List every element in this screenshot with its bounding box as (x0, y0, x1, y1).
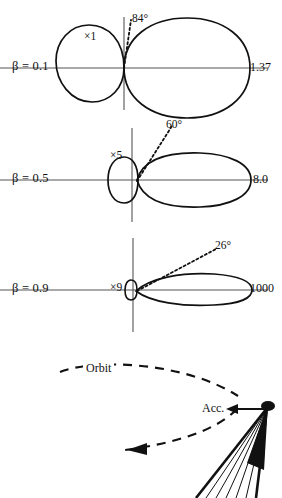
panel-orbit-graphics (60, 364, 275, 498)
multiplier-label-1: ×1 (84, 31, 96, 43)
orbit-arc-lower (125, 409, 237, 450)
peak-value-label-3: 1000 (250, 282, 274, 294)
acceleration-label: Acc. (200, 402, 226, 414)
beta-label-2: β = 0.5 (12, 172, 49, 185)
angle-ray-2 (137, 126, 172, 181)
angle-ray-3 (137, 249, 216, 291)
angle-label-1: 84° (132, 13, 148, 25)
orbit-direction-arrowhead (127, 443, 147, 455)
orbit-label: Orbit (83, 362, 114, 374)
figure-canvas (0, 0, 282, 498)
peak-value-label-1: 1.37 (250, 61, 271, 73)
multiplier-label-2: ×5 (110, 150, 122, 162)
beta-label-3: β = 0.9 (12, 282, 49, 295)
angle-label-2: 60° (166, 119, 182, 131)
beta-label-1: β = 0.1 (12, 60, 49, 73)
peak-value-label-2: 8.0 (253, 173, 268, 185)
multiplier-label-3: ×9 (110, 282, 122, 294)
radiation-pattern-figure: β = 0.1 ×1 84° 1.37 β = 0.5 ×5 60° 8.0 β… (0, 0, 282, 498)
angle-label-3: 26° (215, 240, 231, 252)
